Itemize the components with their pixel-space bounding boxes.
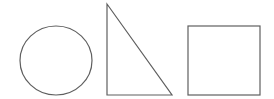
diagram-canvas xyxy=(0,0,274,99)
triangle-shape xyxy=(107,4,172,95)
square-shape xyxy=(188,26,260,95)
circle-shape xyxy=(20,26,92,95)
shapes-svg xyxy=(0,0,274,99)
